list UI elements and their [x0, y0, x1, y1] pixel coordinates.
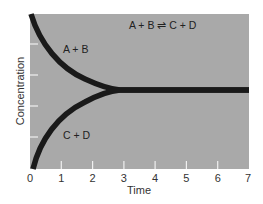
- x-axis-label: Time: [127, 184, 151, 196]
- svg-text:6: 6: [215, 172, 221, 184]
- products-label: C + D: [63, 129, 91, 141]
- svg-text:1: 1: [58, 172, 64, 184]
- equation-label: A + B ⇌ C + D: [129, 19, 197, 31]
- y-axis-label: Concentration: [14, 57, 26, 126]
- x-tick-labels: 0 1 2 3 4 5 6 7: [27, 172, 251, 184]
- svg-text:0: 0: [27, 172, 33, 184]
- chart: A + B ⇌ C + D A + B C + D 0 1 2 3 4 5 6 …: [0, 0, 263, 204]
- svg-text:3: 3: [121, 172, 127, 184]
- svg-text:4: 4: [152, 172, 158, 184]
- svg-text:5: 5: [183, 172, 189, 184]
- svg-text:7: 7: [245, 172, 251, 184]
- reactants-label: A + B: [63, 43, 88, 55]
- svg-text:2: 2: [90, 172, 96, 184]
